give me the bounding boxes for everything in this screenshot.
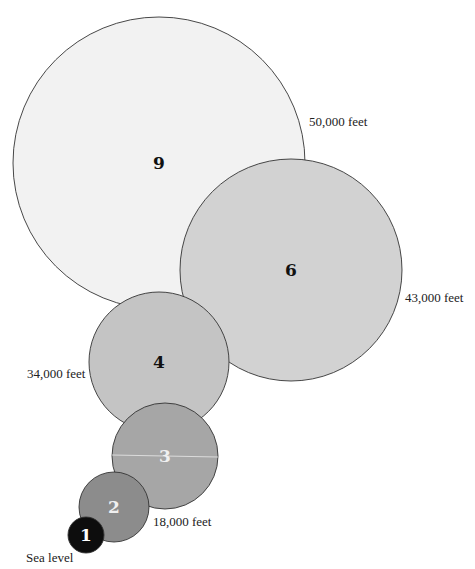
altitude-label-sea-level: Sea level	[26, 550, 73, 566]
circle-label-6: 6	[285, 260, 297, 280]
altitude-label-50000: 50,000 feet	[309, 114, 367, 130]
circle-label-4: 4	[153, 352, 165, 372]
circle-label-1: 1	[80, 525, 92, 545]
altitude-label-34000: 34,000 feet	[27, 366, 85, 382]
altitude-label-18000: 18,000 feet	[153, 514, 211, 530]
circle-label-3: 3	[159, 446, 171, 466]
altitude-label-43000: 43,000 feet	[405, 290, 463, 306]
circle-label-9: 9	[153, 153, 165, 173]
circle-label-2: 2	[108, 497, 120, 517]
circle-1: 1	[68, 517, 104, 553]
circle-diagram: 964321	[0, 0, 475, 569]
